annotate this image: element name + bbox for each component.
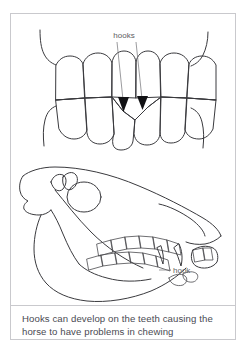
skull-dorsal-outline [23,167,221,236]
incisor-upper-2 [203,248,213,260]
zygomatic-arch [51,210,79,264]
lower-cheek-teeth-row [87,252,170,271]
hook-label: hook [173,266,191,275]
occipital-region [20,176,51,215]
left-lower-gum-line [43,106,56,146]
hook-arrow-right-icon [137,96,148,110]
hook-secondary-point [157,246,163,264]
upper-tooth-6 [187,56,216,100]
right-lower-gum-line [191,108,204,148]
upper-tooth-1 [56,56,85,100]
skull-diagram-svg: hook [11,160,235,305]
caption-divider [10,305,236,306]
lower-tooth-1 [56,98,87,139]
figure-root: hooks [0,0,246,350]
skull-diagram-panel: hook [11,160,235,305]
nasal-notch [159,204,205,236]
lower-cheek-tooth-2 [101,253,117,266]
premaxilla-tip [186,236,221,244]
teeth-diagram-svg: hooks [11,14,235,162]
lower-teeth-row [56,97,216,150]
temporal-bone-b [63,173,78,190]
hooks-leader-line-right [136,42,142,99]
caption-line-1: Hooks can develop on the teeth causing t… [22,312,227,325]
upper-tooth-2 [83,53,112,98]
upper-tooth-3 [112,51,136,98]
teeth-diagram-panel: hooks [11,14,235,162]
hook-arrow-left-icon [118,97,129,112]
upper-cheek-tooth-3 [125,236,141,249]
upper-cheek-tooth-2 [111,237,127,252]
upper-teeth-row [56,51,216,100]
lower-cheek-tooth-5 [143,253,158,267]
left-gum-line [40,30,56,65]
orbit-eye-socket [67,182,101,212]
lower-cheek-tooth-1 [87,255,103,270]
lower-tooth-2 [85,97,114,144]
upper-cheek-tooth-5 [153,237,169,252]
lower-tooth-5 [160,97,187,143]
right-gum-line [191,32,208,66]
caption-line-2: horse to have problems in chewing [22,325,227,338]
hooks-label: hooks [113,31,134,40]
lower-tooth-4 [134,97,161,145]
upper-tooth-5 [160,53,189,98]
upper-cheek-tooth-4 [139,236,155,249]
figure-caption: Hooks can develop on the teeth causing t… [22,312,227,338]
